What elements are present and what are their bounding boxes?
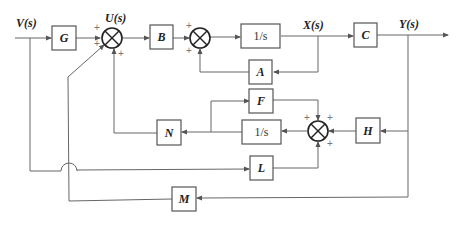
summing-junction-1 bbox=[102, 28, 122, 48]
signal-label-v: V(s) bbox=[16, 16, 37, 30]
block-m: M bbox=[172, 187, 196, 211]
sum1-sign-diag: + bbox=[94, 38, 100, 49]
block-g: G bbox=[52, 26, 76, 50]
sum1-sign-bottom: + bbox=[118, 48, 124, 59]
block-a-label: A bbox=[255, 65, 264, 79]
block-integrator-top-label: 1/s bbox=[253, 29, 267, 43]
signal-label-y: Y(s) bbox=[399, 17, 419, 31]
wire-n-to-sum1 bbox=[114, 49, 157, 133]
block-f: F bbox=[249, 89, 273, 113]
block-c-label: C bbox=[361, 28, 370, 42]
wire-y-to-h bbox=[381, 35, 408, 131]
wire-f-to-sum3 bbox=[273, 100, 318, 120]
sum2-sign-left: + bbox=[186, 20, 192, 31]
sum3-sign-bottom: + bbox=[327, 138, 333, 149]
block-h: H bbox=[356, 118, 380, 143]
block-m-label: M bbox=[178, 192, 190, 206]
sum3-sign-right: + bbox=[327, 112, 333, 123]
block-n-label: N bbox=[164, 126, 175, 140]
signal-label-x: X(s) bbox=[302, 18, 324, 32]
block-l-label: L bbox=[257, 161, 265, 175]
block-diagram: G B 1/s C A F N 1/s H L M bbox=[0, 0, 456, 227]
sum3-sign-top: + bbox=[304, 112, 310, 123]
block-l: L bbox=[250, 156, 273, 180]
block-c: C bbox=[354, 23, 377, 47]
block-integrator-bottom-label: 1/s bbox=[254, 125, 268, 139]
block-integrator-top: 1/s bbox=[241, 24, 280, 48]
sum1-sign-top: + bbox=[94, 22, 100, 33]
wire-m-to-sum1 bbox=[68, 45, 172, 201]
wire-to-l bbox=[77, 169, 249, 170]
signal-label-u: U(s) bbox=[105, 11, 126, 25]
block-b: B bbox=[150, 25, 173, 49]
wire-x-to-a bbox=[274, 36, 318, 72]
summing-junction-2 bbox=[190, 28, 210, 48]
sum2-sign-bottom: + bbox=[186, 45, 192, 56]
block-g-label: G bbox=[60, 31, 69, 45]
wire-l-to-sum3 bbox=[273, 142, 318, 168]
summing-junction-3 bbox=[308, 121, 328, 141]
block-a: A bbox=[249, 60, 272, 84]
block-h-label: H bbox=[362, 124, 373, 138]
block-f-label: F bbox=[256, 94, 265, 108]
block-b-label: B bbox=[156, 30, 165, 44]
block-integrator-bottom: 1/s bbox=[242, 120, 281, 144]
wire-v-branch-down bbox=[30, 38, 61, 171]
block-n: N bbox=[157, 120, 181, 145]
wire-a-to-sum2 bbox=[200, 49, 249, 72]
